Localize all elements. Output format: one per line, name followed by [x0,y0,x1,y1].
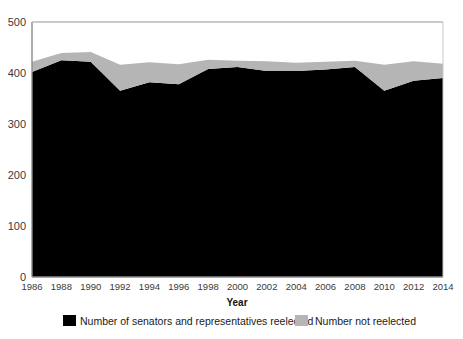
x-tick-label: 2010 [374,281,395,292]
legend-label: Number not reelected [315,315,416,327]
x-tick-label: 1992 [110,281,131,292]
x-tick-label: 2012 [403,281,424,292]
x-tick-label: 2000 [227,281,248,292]
x-tick-labels: 1986198819901992199419961998200020022004… [21,281,453,292]
x-tick-label: 2004 [286,281,307,292]
y-tick-label: 200 [8,169,26,181]
x-tick-label: 1990 [80,281,101,292]
x-tick-label: 2014 [432,281,453,292]
x-tick-label: 1996 [168,281,189,292]
chart-legend: Number of senators and representatives r… [63,315,416,327]
legend-swatch [63,315,76,326]
x-tick-label: 2008 [344,281,365,292]
x-tick-label: 1994 [139,281,160,292]
x-axis-title: Year [226,297,247,308]
area-series [32,60,443,277]
x-tick-label: 2002 [256,281,277,292]
legend-label: Number of senators and representatives r… [80,315,314,327]
x-tick-label: 1988 [51,281,72,292]
data-areas [32,52,443,277]
y-tick-label: 500 [8,16,26,28]
y-tick-label: 400 [8,67,26,79]
x-tick-label: 1998 [198,281,219,292]
legend-swatch [295,315,308,326]
x-tick-label: 1986 [21,281,42,292]
area-chart-figure: 0100200300400500 19861988199019921994199… [0,0,463,339]
y-tick-label: 300 [8,118,26,130]
x-tick-label: 2006 [315,281,336,292]
y-tick-label: 100 [8,220,26,232]
